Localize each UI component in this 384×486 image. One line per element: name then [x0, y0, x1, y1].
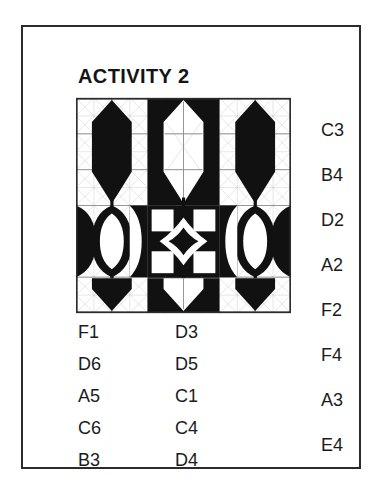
answer-label[interactable]: D6: [78, 355, 101, 373]
answer-column-middle: D3 D5 C1 C4 D4: [175, 323, 198, 483]
answer-label[interactable]: C3: [321, 121, 344, 139]
answer-label[interactable]: B3: [78, 451, 101, 469]
answer-label[interactable]: C1: [175, 387, 198, 405]
answer-label[interactable]: D2: [321, 211, 344, 229]
page-title: ACTIVITY 2: [78, 65, 189, 87]
answer-label[interactable]: D3: [175, 323, 198, 341]
answer-label[interactable]: E4: [321, 436, 344, 454]
answer-label[interactable]: A5: [78, 387, 101, 405]
answer-label[interactable]: B4: [321, 166, 344, 184]
worksheet-frame: ACTIVITY 2: [21, 25, 361, 469]
activity-worksheet-page: ACTIVITY 2: [0, 0, 384, 486]
quilt-pattern-svg: [76, 97, 291, 314]
answer-label[interactable]: F4: [321, 346, 344, 364]
answer-label[interactable]: F1: [78, 323, 101, 341]
answer-column-left: F1 D6 A5 C6 B3: [78, 323, 101, 483]
answer-label[interactable]: F2: [321, 301, 344, 319]
answer-label[interactable]: A3: [321, 391, 344, 409]
answer-label[interactable]: A2: [321, 256, 344, 274]
pattern-final-art: [76, 98, 291, 313]
answer-label[interactable]: D5: [175, 355, 198, 373]
quilt-pattern: [76, 97, 291, 314]
answer-label[interactable]: C6: [78, 419, 101, 437]
answer-label[interactable]: D4: [175, 451, 198, 469]
answer-column-right: C3 B4 D2 A2 F2 F4 A3 E4: [321, 121, 344, 481]
answer-label[interactable]: C4: [175, 419, 198, 437]
